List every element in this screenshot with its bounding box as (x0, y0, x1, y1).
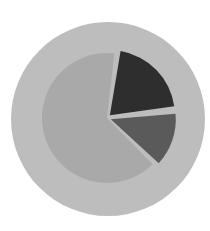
pie-chart (0, 0, 210, 231)
outer-ring (11, 22, 205, 216)
